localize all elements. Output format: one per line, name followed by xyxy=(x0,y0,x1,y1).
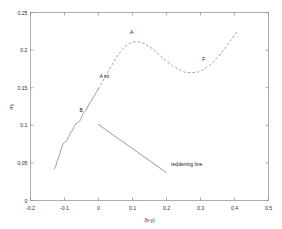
annotation-f: F xyxy=(202,56,205,62)
x-tick-label-7: 0.5 xyxy=(265,205,272,211)
series-main-sequence-observed xyxy=(54,89,98,169)
y-tick-label-5: 0.25 xyxy=(17,10,27,16)
x-tick-label-4: 0.2 xyxy=(163,205,170,211)
y-tick-label-3: 0.15 xyxy=(17,85,27,91)
annotation-b: B xyxy=(79,107,83,113)
x-tick-label-6: 0.4 xyxy=(231,205,238,211)
plot-frame xyxy=(31,13,269,201)
annotation-reddening-line: reddening line xyxy=(171,161,203,167)
x-tick-label-3: 0.1 xyxy=(129,205,136,211)
x-tick-label-2: 0 xyxy=(97,205,100,211)
y-tick-label-4: 0.2 xyxy=(20,47,27,53)
x-tick-label-5: 0.3 xyxy=(197,205,204,211)
chart-figure: -0.2-0.100.10.20.30.40.500.050.10.150.20… xyxy=(0,0,282,229)
series-reddening-line xyxy=(99,125,167,173)
color-color-diagram: -0.2-0.100.10.20.30.40.500.050.10.150.20… xyxy=(0,0,282,229)
x-tick-label-0: -0.2 xyxy=(26,205,35,211)
series-main-sequence-interpolated xyxy=(98,31,238,90)
x-tick-label-1: -0.1 xyxy=(60,205,69,211)
annotation-a-int: A int xyxy=(100,73,110,79)
y-tick-label-0: 0 xyxy=(25,198,28,204)
annotation-a: A xyxy=(130,29,134,35)
y-tick-label-1: 0.05 xyxy=(17,160,27,166)
x-axis-label: (b-y) xyxy=(144,217,155,223)
y-tick-label-2: 0.1 xyxy=(20,122,27,128)
y-axis-label: m₁ xyxy=(8,103,14,109)
